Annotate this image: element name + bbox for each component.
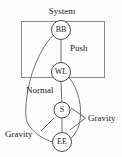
node-ee[interactable]: EE — [53, 133, 72, 152]
edge-label-gravity-right: Gravity — [88, 113, 116, 123]
system-title-label: System — [49, 6, 76, 16]
force-diagram: BB WL S EE System Push Normal Gravity Gr… — [0, 0, 122, 157]
edge-label-gravity-left: Gravity — [5, 129, 33, 139]
node-s-label: S — [60, 105, 64, 114]
edge-label-normal: Normal — [26, 85, 54, 95]
node-wl-label: WL — [55, 67, 68, 76]
gravity-pointer-upper — [71, 108, 86, 118]
node-wl[interactable]: WL — [52, 63, 71, 82]
diagram-page: BB WL S EE System Push Normal Gravity Gr… — [0, 0, 122, 157]
edge-label-push: Push — [70, 43, 88, 53]
node-bb[interactable]: BB — [52, 21, 71, 40]
node-s[interactable]: S — [54, 102, 70, 118]
edge-wl-s — [61, 82, 62, 103]
gravity-left-pointer — [41, 118, 54, 131]
node-ee-label: EE — [57, 137, 67, 146]
node-bb-label: BB — [56, 25, 67, 34]
